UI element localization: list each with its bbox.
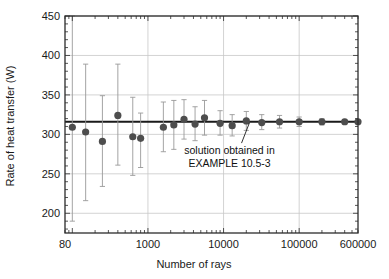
x-tick-label: 10000 (208, 238, 239, 250)
y-tick-label: 400 (42, 49, 60, 61)
y-tick-label: 200 (42, 207, 60, 219)
x-tick-label: 100000 (281, 238, 318, 250)
x-tick-label: 80 (59, 238, 71, 250)
annotation-line-2: EXAMPLE 10.5-3 (188, 157, 270, 169)
x-axis-title: Number of rays (156, 258, 232, 270)
x-tick-label: 600000 (340, 238, 377, 250)
chart-svg: 80100010000100000600000 2002503003504004… (0, 0, 389, 279)
chart-figure: 80100010000100000600000 2002503003504004… (0, 0, 389, 279)
y-tick-label: 300 (42, 128, 60, 140)
annotation-line-1: solution obtained in (184, 144, 275, 156)
y-axis-title: Rate of heat transfer (W) (4, 65, 16, 186)
y-tick-label: 450 (42, 10, 60, 22)
y-tick-label: 250 (42, 168, 60, 180)
y-tick-label: 350 (42, 89, 60, 101)
x-tick-label: 1000 (136, 238, 160, 250)
